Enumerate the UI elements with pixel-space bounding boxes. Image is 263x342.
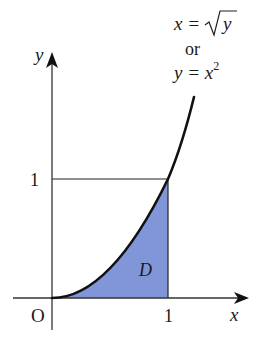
- equation-or: or: [185, 39, 200, 59]
- origin-label: O: [31, 305, 45, 326]
- equation-line-2-exponent: 2: [213, 59, 219, 73]
- region-label: D: [138, 260, 152, 280]
- equation-line-1: x =: [173, 13, 200, 34]
- equation-radicand: y: [221, 13, 232, 34]
- region-d: [52, 179, 168, 298]
- diagram-canvas: y 1 O 1 x D x = y or y = x2: [0, 0, 263, 342]
- equation-line-2: y = x2: [172, 59, 219, 83]
- equation-line-2-lhs: y = x: [172, 62, 214, 83]
- equation-line-1-lhs: x =: [173, 13, 200, 34]
- x-tick-label: 1: [164, 306, 173, 326]
- y-tick-label: 1: [30, 170, 39, 190]
- x-axis-label: x: [229, 304, 239, 325]
- y-axis-label: y: [33, 44, 44, 65]
- radical-sign-icon: [205, 11, 237, 35]
